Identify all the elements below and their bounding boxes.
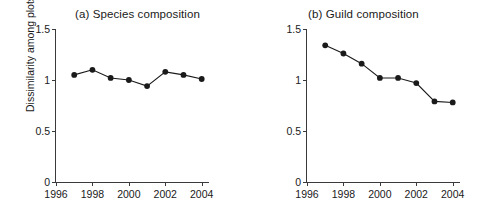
y-axis-tick-label: 0 <box>295 177 301 188</box>
x-axis-tick <box>165 182 166 186</box>
panel-title: (a) Species composition <box>0 8 251 20</box>
x-axis-tick <box>343 182 344 186</box>
data-point-marker <box>450 100 456 106</box>
x-axis-tick-label: 2000 <box>368 189 391 200</box>
y-axis-tick <box>303 131 307 132</box>
x-axis-tick <box>416 182 417 186</box>
data-point-marker <box>395 75 401 81</box>
x-axis-tick <box>92 182 93 186</box>
y-axis-tick-label: 1.5 <box>286 24 301 35</box>
data-point-marker <box>341 51 347 57</box>
x-axis-tick-label: 2002 <box>154 189 177 200</box>
series-line-species <box>56 29 209 182</box>
y-axis-tick-label: 1 <box>44 75 50 86</box>
y-axis-tick <box>303 80 307 81</box>
figure: (a) Species composition Dissimilarity am… <box>0 0 502 211</box>
data-point-marker <box>162 69 168 75</box>
x-axis-tick <box>307 182 308 186</box>
data-point-marker <box>199 76 205 82</box>
data-point-marker <box>322 42 328 48</box>
y-axis-tick <box>52 131 56 132</box>
x-axis-tick-label: 1996 <box>44 189 67 200</box>
x-axis-tick <box>202 182 203 186</box>
x-axis-tick-label: 1996 <box>295 189 318 200</box>
plot-area: 00.511.519961998200020022004 <box>306 29 460 183</box>
y-axis-tick-label: 0.5 <box>286 126 301 137</box>
y-axis-tick-label: 0.5 <box>35 126 50 137</box>
data-point-marker <box>432 99 438 105</box>
data-point-marker <box>181 72 187 78</box>
x-axis-tick <box>56 182 57 186</box>
x-axis-tick <box>380 182 381 186</box>
data-point-marker <box>359 61 365 67</box>
y-axis-tick <box>52 80 56 81</box>
y-axis-label: Dissimilarity among plots <box>24 0 36 112</box>
x-axis-tick-label: 2002 <box>405 189 428 200</box>
x-axis-tick-label: 2000 <box>117 189 140 200</box>
data-point-marker <box>144 83 150 89</box>
data-point-marker <box>413 80 419 86</box>
data-point-marker <box>108 75 114 81</box>
x-axis-tick <box>453 182 454 186</box>
plot-area: 00.511.519961998200020022004 <box>55 29 209 183</box>
y-axis-tick-label: 1.5 <box>35 24 50 35</box>
x-axis-tick-label: 2004 <box>190 189 213 200</box>
x-axis-tick-label: 2004 <box>441 189 464 200</box>
data-point-marker <box>377 75 383 81</box>
x-axis-tick-label: 1998 <box>332 189 355 200</box>
panel-title: (b) Guild composition <box>251 8 502 20</box>
y-axis-tick-label: 1 <box>295 75 301 86</box>
x-axis-tick-label: 1998 <box>81 189 104 200</box>
data-point-marker <box>90 67 96 73</box>
x-axis-tick <box>129 182 130 186</box>
chart-panel-species-composition: (a) Species composition Dissimilarity am… <box>0 0 251 211</box>
series-line-guild <box>307 29 460 182</box>
data-point-marker <box>126 77 132 83</box>
chart-panel-guild-composition: (b) Guild composition 00.511.51996199820… <box>251 0 502 211</box>
y-axis-tick <box>303 29 307 30</box>
y-axis-tick <box>52 29 56 30</box>
data-point-marker <box>71 72 77 78</box>
y-axis-tick-label: 0 <box>44 177 50 188</box>
